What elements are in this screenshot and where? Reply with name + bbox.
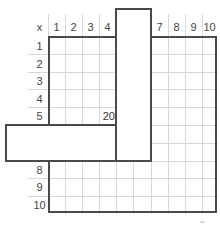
header-divider	[28, 196, 48, 197]
column-header-3: 3	[82, 18, 99, 36]
footer-mark: ▪▪	[200, 219, 204, 225]
column-header-7: 7	[151, 18, 168, 36]
header-divider	[28, 54, 48, 55]
header-divider	[202, 14, 203, 36]
row-header-8: 8	[31, 161, 48, 179]
covering-shape-joint	[117, 126, 150, 160]
header-divider	[48, 14, 49, 36]
cell-r5-c4-value: 20	[99, 108, 115, 125]
row-header-10: 10	[31, 196, 48, 214]
column-header-4: 4	[99, 18, 116, 36]
header-divider	[99, 14, 100, 36]
column-header-8: 8	[168, 18, 185, 36]
multiplication-grid-diagram: x 1 2 3 4 7 8 9 10 1 2 3 4 5 8 9 10	[0, 0, 220, 225]
column-header-9: 9	[185, 18, 202, 36]
header-divider	[28, 72, 48, 73]
row-header-1: 1	[31, 37, 48, 55]
header-divider	[168, 14, 169, 36]
row-header-2: 2	[31, 55, 48, 73]
header-divider	[65, 14, 66, 36]
row-header-9: 9	[31, 178, 48, 196]
row-header-3: 3	[31, 72, 48, 90]
column-header-10: 10	[201, 18, 218, 36]
header-divider	[28, 107, 48, 108]
column-header-2: 2	[65, 18, 82, 36]
corner-label: x	[31, 18, 48, 36]
column-header-1: 1	[48, 18, 65, 36]
row-header-5: 5	[31, 107, 48, 125]
header-divider	[28, 89, 48, 90]
row-header-4: 4	[31, 90, 48, 108]
header-divider	[185, 14, 186, 36]
header-divider	[28, 178, 48, 179]
header-divider	[82, 14, 83, 36]
